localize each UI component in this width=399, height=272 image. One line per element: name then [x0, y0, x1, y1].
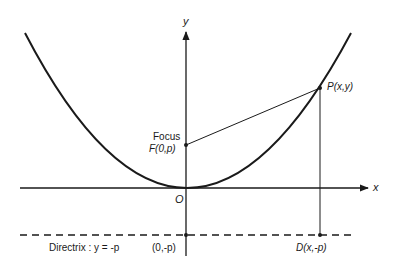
- x-axis-label: x: [373, 182, 379, 193]
- point-p-label: P(x,y): [327, 82, 353, 92]
- parabola-diagram: [0, 0, 399, 272]
- parabola-curve: [25, 33, 351, 188]
- origin-label: O: [175, 194, 184, 205]
- focus-point: [184, 143, 188, 147]
- curve-point-p: [318, 86, 322, 90]
- directrix-foot-point: [318, 233, 322, 237]
- focus-label: F(0,p): [149, 144, 176, 154]
- directrix-intercept-point: [184, 233, 188, 237]
- directrix-foot-label: D(x,-p): [296, 243, 327, 253]
- y-axis-label: y: [183, 16, 189, 27]
- directrix-label: Directrix : y = -p: [49, 243, 119, 253]
- focus-to-point-segment: [186, 88, 320, 145]
- focus-title: Focus: [153, 132, 180, 142]
- directrix-intercept-label: (0,-p): [152, 243, 176, 253]
